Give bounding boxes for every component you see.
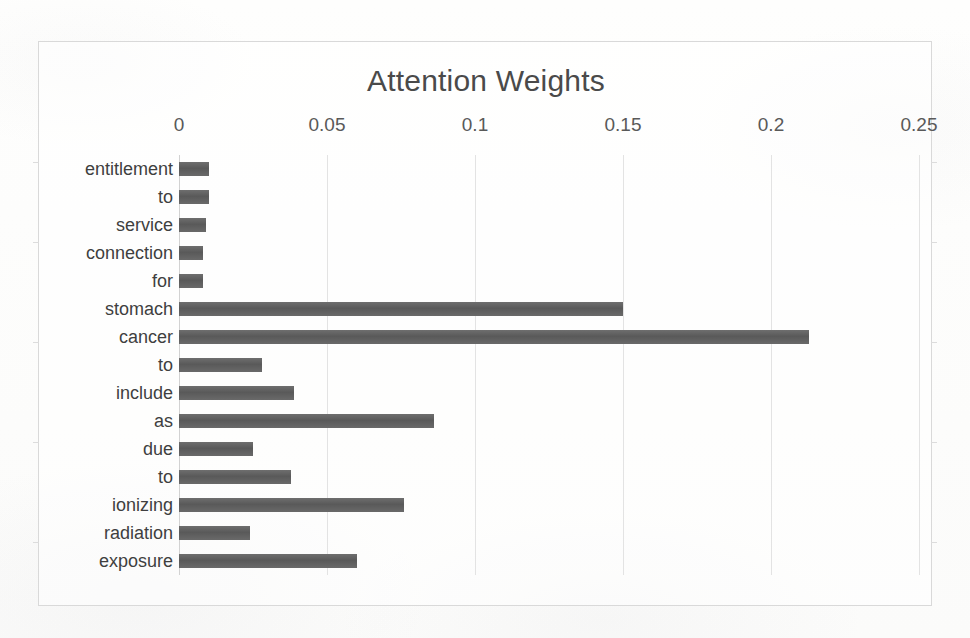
x-tick-label: 0.25 bbox=[901, 114, 938, 136]
frame-tick-icon bbox=[931, 242, 937, 243]
bar[interactable] bbox=[179, 162, 209, 176]
gridline-0.1 bbox=[475, 155, 476, 575]
bar[interactable] bbox=[179, 498, 404, 512]
frame-tick-icon bbox=[33, 442, 39, 443]
bar[interactable] bbox=[179, 386, 294, 400]
x-tick-label: 0.05 bbox=[309, 114, 346, 136]
bar[interactable] bbox=[179, 442, 253, 456]
frame-tick-icon bbox=[931, 342, 937, 343]
bar[interactable] bbox=[179, 526, 250, 540]
bar[interactable] bbox=[179, 274, 203, 288]
gridline-0.25 bbox=[919, 155, 920, 575]
bar[interactable] bbox=[179, 330, 809, 344]
frame-tick-icon bbox=[931, 162, 937, 163]
x-axis-tick-labels: 00.050.10.150.20.25 bbox=[39, 114, 933, 140]
chart-title: Attention Weights bbox=[39, 64, 933, 98]
x-tick-label: 0.2 bbox=[758, 114, 784, 136]
frame-tick-icon bbox=[33, 542, 39, 543]
frame-tick-icon bbox=[931, 542, 937, 543]
bar[interactable] bbox=[179, 246, 203, 260]
x-tick-label: 0.15 bbox=[605, 114, 642, 136]
x-tick-label: 0 bbox=[174, 114, 185, 136]
frame-tick-icon bbox=[931, 442, 937, 443]
gridline-0.05 bbox=[327, 155, 328, 575]
plot-area bbox=[39, 155, 933, 575]
bar[interactable] bbox=[179, 554, 357, 568]
x-tick-label: 0.1 bbox=[462, 114, 488, 136]
gridline-0.15 bbox=[623, 155, 624, 575]
bar[interactable] bbox=[179, 358, 262, 372]
frame-tick-icon bbox=[33, 162, 39, 163]
bar[interactable] bbox=[179, 218, 206, 232]
bar[interactable] bbox=[179, 190, 209, 204]
bar[interactable] bbox=[179, 414, 434, 428]
bar[interactable] bbox=[179, 470, 291, 484]
chart-card: Attention Weights 00.050.10.150.20.25 en… bbox=[38, 41, 932, 606]
frame-tick-icon bbox=[33, 242, 39, 243]
frame-tick-icon bbox=[33, 342, 39, 343]
bar[interactable] bbox=[179, 302, 623, 316]
gridline-0.2 bbox=[771, 155, 772, 575]
